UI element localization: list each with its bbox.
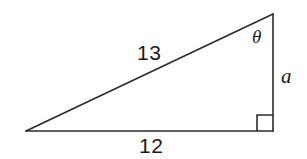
hypotenuse-label: 13 (137, 42, 161, 63)
base-label: 12 (139, 135, 163, 156)
angle-theta-label: θ (252, 27, 261, 46)
right-angle-marker-icon (257, 115, 273, 131)
triangle-figure: 13 12 a θ (0, 0, 307, 159)
hypotenuse-line (26, 14, 273, 131)
opposite-side-label: a (281, 66, 292, 87)
